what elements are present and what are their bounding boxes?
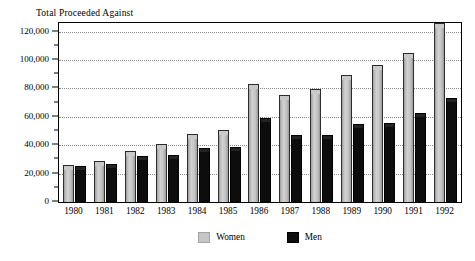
x-axis-tick-label: 1991 (404, 206, 423, 216)
bar-men (75, 168, 86, 202)
y-axis-tick-label: 100,000 (20, 54, 49, 64)
bar-women (218, 133, 229, 202)
legend-label: Women (216, 232, 245, 242)
y-axis-tick-label: 60,000 (24, 111, 49, 121)
bar-group (245, 23, 276, 202)
bar-men (168, 157, 179, 202)
bar-men (106, 166, 117, 202)
bar-group (430, 23, 461, 202)
chart-title: Total Proceeded Against (36, 8, 133, 18)
bar-chart: Total Proceeded Against 020,00040,00060,… (0, 0, 475, 261)
bar-group (121, 23, 152, 202)
y-axis-tick-label: 80,000 (24, 82, 49, 92)
y-axis-tick-label: 40,000 (24, 139, 49, 149)
x-axis-tick-label: 1987 (281, 206, 300, 216)
bar-men (260, 120, 271, 202)
x-axis-tick-label: 1982 (126, 206, 145, 216)
bar-women (63, 168, 74, 202)
bar-women (94, 164, 105, 202)
bar-women (341, 78, 352, 202)
bar-men (137, 158, 148, 202)
bar-women (434, 26, 445, 202)
bar-women (279, 98, 290, 202)
bar-men (322, 137, 333, 202)
x-axis-tick-label: 1988 (312, 206, 331, 216)
bar-women (310, 92, 321, 202)
bar-group (152, 23, 183, 202)
chart-legend: WomenMen (58, 228, 462, 246)
y-axis-tick-label: 0 (45, 196, 50, 206)
bar-group (399, 23, 430, 202)
x-axis-tick-label: 1990 (373, 206, 392, 216)
plot-area (58, 22, 462, 203)
y-axis-tick-label: 20,000 (24, 168, 49, 178)
bar-group (90, 23, 121, 202)
bar-group (183, 23, 214, 202)
x-axis-tick-label: 1984 (188, 206, 207, 216)
x-axis-tick-label: 1986 (250, 206, 269, 216)
bar-men (199, 150, 210, 202)
legend-item: Women (198, 232, 245, 243)
bar-group (306, 23, 337, 202)
y-axis-tick-label: 120,000 (20, 26, 49, 36)
x-axis-tick-label: 1985 (219, 206, 238, 216)
bar-men (415, 115, 426, 202)
bar-men (230, 149, 241, 202)
x-axis-tick-label: 1992 (435, 206, 454, 216)
x-axis-tick-label: 1980 (64, 206, 83, 216)
bar-group (275, 23, 306, 202)
legend-swatch-icon (287, 232, 299, 243)
y-axis: 020,00040,00060,00080,000100,000120,000 (0, 22, 58, 203)
bar-group (368, 23, 399, 202)
x-axis-tick-label: 1981 (95, 206, 114, 216)
bar-group (214, 23, 245, 202)
bar-women (403, 56, 414, 202)
bar-men (446, 100, 457, 202)
x-axis-tick-label: 1983 (157, 206, 176, 216)
x-axis-tick-label: 1989 (342, 206, 361, 216)
x-axis: 1980198119821983198419851986198719881989… (58, 206, 462, 222)
bar-men (384, 125, 395, 202)
bar-women (125, 154, 136, 202)
bar-women (187, 137, 198, 202)
bar-women (248, 87, 259, 202)
legend-item: Men (287, 232, 322, 243)
legend-label: Men (305, 232, 322, 242)
bar-women (372, 68, 383, 202)
bar-men (291, 137, 302, 202)
bar-women (156, 147, 167, 202)
bar-men (353, 126, 364, 202)
legend-swatch-icon (198, 232, 210, 243)
bar-group (337, 23, 368, 202)
bar-group (59, 23, 90, 202)
